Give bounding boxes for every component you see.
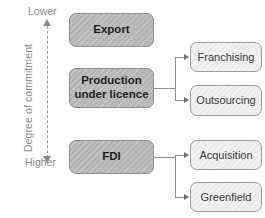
node-fdi[interactable]: FDI	[69, 140, 154, 174]
node-franchising[interactable]: Franchising	[190, 42, 262, 72]
node-outsourcing[interactable]: Outsourcing	[190, 85, 262, 116]
arrow-up-icon	[43, 19, 51, 26]
node-export[interactable]: Export	[69, 13, 154, 47]
node-production-under-licence[interactable]: Production under licence	[69, 68, 154, 108]
node-production-line2: under licence	[74, 88, 148, 100]
axis-cap-lower: Lower	[28, 5, 57, 17]
axis-label-degree-of-commitment: Degree of commitment	[22, 18, 34, 178]
node-greenfield[interactable]: Greenfield	[190, 182, 262, 212]
node-acquisition[interactable]: Acquisition	[190, 140, 262, 170]
axis-dashed-line	[47, 26, 48, 158]
axis-cap-higher: Higher	[25, 156, 56, 168]
node-production-line1: Production	[81, 74, 142, 86]
entry-mode-diagram: Degree of commitment Lower Higher Export…	[0, 0, 265, 218]
